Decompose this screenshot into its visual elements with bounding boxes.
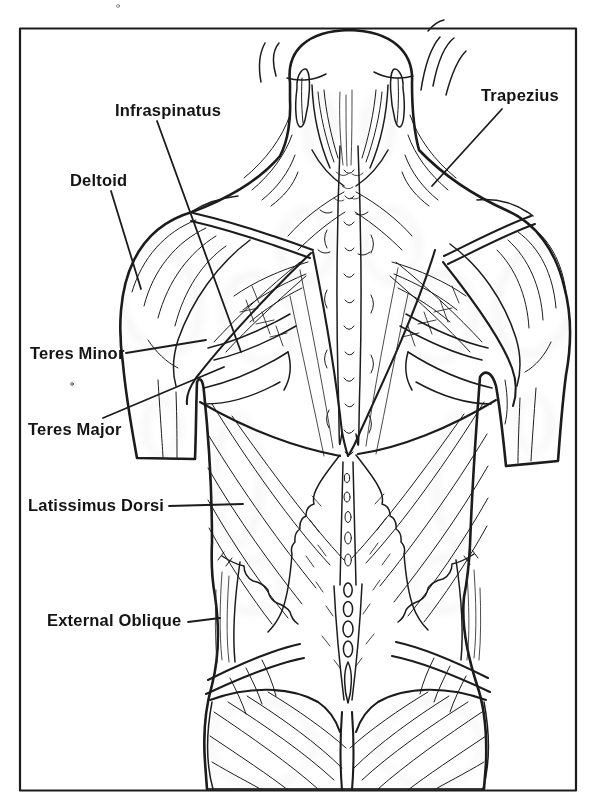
leader-deltoid [111, 191, 141, 289]
labels: Infraspinatus Trapezius Deltoid Teres Mi… [28, 86, 559, 629]
arm-right [505, 380, 536, 463]
leader-trapezius [432, 109, 502, 186]
callout-external-oblique: External Oblique [47, 611, 220, 629]
leader-infraspinatus [157, 121, 241, 352]
scapula-left [187, 196, 313, 404]
label-trapezius: Trapezius [481, 86, 559, 104]
label-deltoid: Deltoid [70, 171, 127, 189]
scapula-right [390, 200, 535, 406]
teres-minor-right [400, 314, 488, 360]
gluteal-region [206, 642, 490, 790]
label-latissimus-dorsi: Latissimus Dorsi [28, 496, 164, 514]
vertebra-marks [318, 170, 374, 455]
latissimus-right [352, 400, 496, 630]
callout-trapezius: Trapezius [432, 86, 559, 186]
scanned-book-page: Infraspinatus Trapezius Deltoid Teres Mi… [0, 0, 596, 811]
neck-muscles [296, 69, 405, 201]
label-infraspinatus: Infraspinatus [115, 101, 221, 119]
label-external-oblique: External Oblique [47, 611, 181, 629]
spine-column [313, 146, 435, 790]
deltoid-left [132, 220, 250, 386]
external-oblique-left [215, 552, 240, 662]
label-teres-major: Teres Major [28, 420, 122, 438]
body-shading [107, 30, 589, 789]
figure-frame [20, 29, 576, 791]
leader-latissimus-dorsi [169, 504, 243, 506]
lumbar-fascia [306, 494, 390, 668]
anatomy-figure: Infraspinatus Trapezius Deltoid Teres Mi… [0, 0, 596, 811]
leader-teres-minor [126, 340, 206, 353]
label-teres-minor: Teres Minor [30, 344, 125, 362]
